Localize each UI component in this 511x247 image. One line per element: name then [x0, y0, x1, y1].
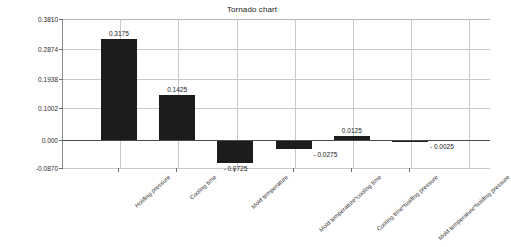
- y-axis-tick-label: 0.3810: [38, 16, 58, 23]
- bar-value-label: - 0.0275: [313, 151, 337, 158]
- gridline-vertical: [353, 19, 354, 168]
- y-axis-tick: [59, 108, 63, 109]
- x-axis-tick: [234, 168, 235, 172]
- gridline-horizontal: [63, 19, 490, 20]
- y-axis-tick: [59, 49, 63, 50]
- x-axis-category-label: Holding pressure: [134, 174, 172, 209]
- x-axis-category-label: Mold temperature*cooling time: [317, 174, 381, 233]
- x-axis-tick: [176, 168, 177, 172]
- x-axis-category-label: Cooling time*holding pressure: [375, 174, 439, 232]
- gridline-vertical: [411, 19, 412, 168]
- x-axis-category-label: Mold temperature*holding pressure: [437, 174, 511, 241]
- x-axis-tick: [409, 168, 410, 172]
- x-axis-tick: [118, 168, 119, 172]
- bar-value-label: - 0.0025: [430, 143, 454, 150]
- plot-area: 0.31750.1425- 0.0725- 0.02750.0125- 0.00…: [62, 19, 490, 168]
- gridline-vertical: [178, 19, 179, 168]
- bar: [101, 39, 137, 140]
- bar-value-label: 0.3175: [109, 30, 129, 37]
- bar: [276, 140, 312, 149]
- y-axis-tick-label: 0.1002: [38, 105, 58, 112]
- y-axis-tick-label: 0.1938: [38, 75, 58, 82]
- x-axis-labels: Holding pressureCooling timeMold tempera…: [62, 168, 490, 247]
- chart-title: Tornado chart: [0, 5, 504, 14]
- x-axis-category-label: Mold temperature: [250, 174, 289, 210]
- bar-value-label: 0.0125: [342, 127, 362, 134]
- bar-value-label: 0.1425: [167, 86, 187, 93]
- bar: [159, 95, 195, 140]
- y-axis-tick-label: 0.000: [42, 137, 58, 144]
- x-axis-tick: [293, 168, 294, 172]
- y-axis-labels: 0.38100.28740.19380.10020.000-0.0870: [0, 19, 58, 168]
- x-axis-tick: [351, 168, 352, 172]
- zero-baseline: [63, 140, 490, 141]
- y-axis-tick: [59, 19, 63, 20]
- y-axis-tick-label: -0.0870: [36, 165, 58, 172]
- bar: [217, 140, 253, 163]
- x-axis-category-label: Cooling time: [189, 174, 218, 201]
- y-axis-tick: [59, 79, 63, 80]
- y-axis-tick-label: 0.2874: [38, 45, 58, 52]
- gridline-vertical: [469, 19, 470, 168]
